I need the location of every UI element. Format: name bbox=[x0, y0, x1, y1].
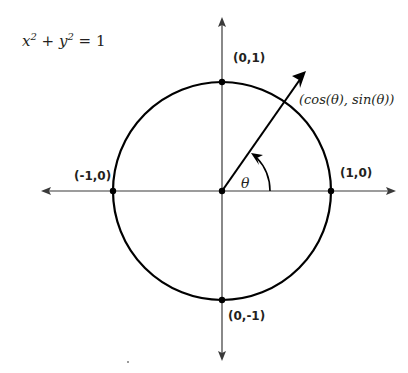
terminal-ray-arrowhead bbox=[292, 71, 306, 88]
label-point-right: (1,0) bbox=[340, 166, 372, 180]
stray-dot-artifact bbox=[127, 361, 129, 363]
angle-label-theta: θ bbox=[241, 175, 250, 191]
point-label-theta-2: θ bbox=[376, 92, 384, 107]
unit-circle-canvas: x2 + y2 = 1 (cos(θ), sin(θ)) θ (0,1) (1,… bbox=[0, 0, 408, 373]
unit-circle-figure: x2 + y2 = 1 (cos(θ), sin(θ)) θ (0,1) (1,… bbox=[0, 0, 408, 373]
point-dot-top bbox=[219, 79, 225, 85]
label-point-left: (-1,0) bbox=[74, 169, 111, 183]
equation-x-exponent: 2 bbox=[29, 31, 36, 42]
point-label-theta-1: θ bbox=[331, 92, 339, 107]
svg-text:(cos(θ), sin(θ)): (cos(θ), sin(θ)) bbox=[299, 92, 394, 107]
equation-one: 1 bbox=[96, 32, 106, 50]
point-label-close: )) bbox=[383, 92, 394, 107]
angle-arc-path bbox=[257, 158, 270, 191]
terminal-ray-group bbox=[222, 71, 306, 191]
point-label-mid: ), sin( bbox=[338, 92, 378, 107]
point-dot-left bbox=[110, 188, 116, 194]
point-dot-right bbox=[328, 188, 334, 194]
equation-label: x2 + y2 = 1 bbox=[22, 31, 105, 50]
equation-y-exponent: 2 bbox=[66, 31, 73, 42]
point-label-cos-sin: (cos(θ), sin(θ)) bbox=[299, 92, 394, 107]
terminal-ray-line bbox=[222, 78, 301, 191]
svg-text:x2 + y2 = 1: x2 + y2 = 1 bbox=[22, 31, 105, 50]
point-label-open: (cos( bbox=[299, 92, 332, 107]
label-point-top: (0,1) bbox=[233, 51, 265, 65]
equation-plus: + bbox=[37, 32, 59, 50]
point-dot-bottom bbox=[219, 297, 225, 303]
label-point-bottom: (0,-1) bbox=[228, 309, 265, 323]
axes-group bbox=[41, 17, 396, 361]
angle-arc-group bbox=[251, 153, 270, 191]
point-dot-origin bbox=[219, 188, 225, 194]
equation-equals: = bbox=[74, 32, 96, 50]
